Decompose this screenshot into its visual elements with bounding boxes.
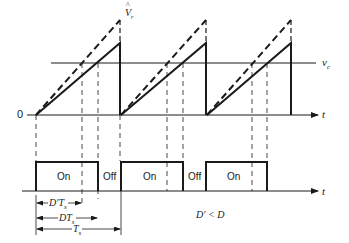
top-time-axis-label: t xyxy=(322,109,325,120)
sawtooth-dashed xyxy=(36,20,291,115)
period-lines xyxy=(36,115,120,161)
projection-lines xyxy=(82,63,267,206)
bottom-time-axis-label: t xyxy=(322,186,325,197)
sawtooth-solid xyxy=(36,43,291,115)
pulse-off-2: Off xyxy=(188,172,201,182)
origin-label: 0 xyxy=(17,109,23,120)
dimension-ts: Ts xyxy=(72,224,82,237)
pulse-on-3: On xyxy=(227,172,240,182)
pulse-on-2: On xyxy=(143,172,156,182)
control-voltage-label: v_cvc xyxy=(322,57,330,71)
duty-cycle-annotation: D′ < D xyxy=(196,210,224,220)
pulse-on-1: On xyxy=(57,172,70,182)
dashed-peak-drop xyxy=(120,20,291,43)
pulse-off-1: Off xyxy=(103,172,116,182)
peak-hat: ^ xyxy=(126,2,130,10)
peak-voltage-label: ^Vr xyxy=(125,8,133,20)
dimension-dprime-ts: D′Ts xyxy=(48,198,68,211)
